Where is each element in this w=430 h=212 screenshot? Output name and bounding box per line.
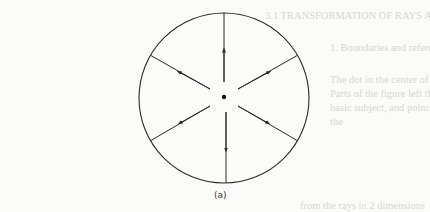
figure-caption: (a) <box>214 190 227 200</box>
center-point <box>222 95 226 99</box>
radial-rays-diagram <box>0 0 430 212</box>
